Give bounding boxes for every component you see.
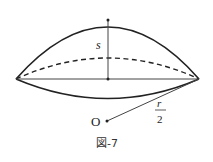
label-o: O — [91, 114, 100, 129]
center-point-o — [106, 120, 109, 123]
radius-line — [107, 79, 199, 121]
label-r: r — [157, 97, 162, 109]
bottom-arc — [16, 79, 199, 99]
label-s: s — [96, 38, 101, 52]
chord-center-point — [107, 78, 110, 81]
figure-caption: 図-7 — [96, 137, 118, 150]
diagram-canvas: s O r 2 図-7 — [0, 0, 213, 162]
top-point — [107, 19, 110, 22]
label-2: 2 — [157, 113, 163, 125]
